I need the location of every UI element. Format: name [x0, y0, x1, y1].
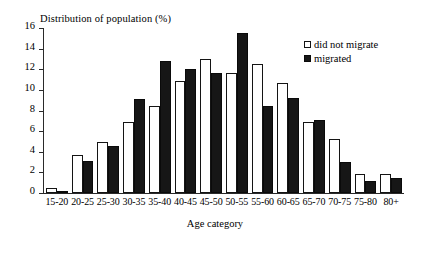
- y-tick-label: 16: [25, 20, 36, 31]
- bar-did-not-migrate: [200, 59, 211, 193]
- bar-migrated: [185, 69, 196, 193]
- bar-migrated: [391, 178, 402, 193]
- y-tick-label: 0: [30, 185, 35, 196]
- legend-label-migrated: migrated: [314, 52, 351, 66]
- bar-migrated: [263, 106, 274, 193]
- y-tick-12: 12: [0, 69, 43, 70]
- y-tick-label: 10: [25, 82, 36, 93]
- bar-group: [252, 28, 274, 193]
- y-tick-4: 4: [0, 152, 43, 153]
- bar-group: [123, 28, 145, 193]
- y-tick-mark: [39, 172, 43, 173]
- bar-migrated: [340, 162, 351, 193]
- bar-migrated: [314, 120, 325, 193]
- bar-did-not-migrate: [72, 155, 83, 193]
- legend-swatch-white-icon: [304, 41, 311, 48]
- y-tick-label: 4: [30, 144, 35, 155]
- bar-migrated: [108, 146, 119, 193]
- x-axis-title: Age category: [0, 218, 430, 229]
- bar-group: [46, 28, 68, 193]
- bar-did-not-migrate: [303, 122, 314, 193]
- y-tick-0: 0: [0, 193, 43, 194]
- bar-did-not-migrate: [329, 139, 340, 193]
- chart-legend: did not migrate migrated: [304, 38, 378, 65]
- bar-group: [149, 28, 171, 193]
- bar-group: [175, 28, 197, 193]
- bar-did-not-migrate: [277, 83, 288, 193]
- bar-did-not-migrate: [149, 106, 160, 193]
- legend-label-did-not-migrate: did not migrate: [314, 38, 378, 52]
- bar-did-not-migrate: [226, 73, 237, 193]
- legend-swatch-black-icon: [304, 55, 311, 62]
- y-tick-mark: [39, 28, 43, 29]
- bar-migrated: [160, 61, 171, 193]
- y-tick-mark: [39, 152, 43, 153]
- bar-migrated: [57, 191, 68, 193]
- y-tick-6: 6: [0, 131, 43, 132]
- y-tick-10: 10: [0, 90, 43, 91]
- x-axis-ticks: 15-2020-2525-3030-3535-4040-4545-5050-55…: [44, 196, 404, 212]
- bar-migrated: [211, 73, 222, 193]
- population-distribution-bar-chart: Distribution of population (%) 024681012…: [0, 0, 430, 254]
- legend-item-migrated: migrated: [304, 52, 378, 66]
- bar-did-not-migrate: [380, 174, 391, 193]
- bar-group: [226, 28, 248, 193]
- y-tick-2: 2: [0, 172, 43, 173]
- bar-did-not-migrate: [46, 188, 57, 193]
- bar-did-not-migrate: [355, 174, 366, 193]
- bar-migrated: [288, 98, 299, 193]
- y-tick-16: 16: [0, 28, 43, 29]
- y-tick-14: 14: [0, 49, 43, 50]
- y-tick-label: 2: [30, 164, 35, 175]
- bar-group: [380, 28, 402, 193]
- bar-did-not-migrate: [123, 122, 134, 193]
- bar-group: [72, 28, 94, 193]
- bar-did-not-migrate: [97, 142, 108, 193]
- bar-group: [200, 28, 222, 193]
- y-axis-title: Distribution of population (%): [40, 13, 171, 24]
- bar-did-not-migrate: [252, 64, 263, 193]
- bar-migrated: [83, 161, 94, 193]
- bar-group: [97, 28, 119, 193]
- bar-migrated: [237, 33, 248, 193]
- bar-did-not-migrate: [175, 81, 186, 193]
- bar-migrated: [365, 181, 376, 193]
- y-tick-mark: [39, 111, 43, 112]
- y-tick-mark: [39, 69, 43, 70]
- y-tick-8: 8: [0, 111, 43, 112]
- legend-item-did-not-migrate: did not migrate: [304, 38, 378, 52]
- y-tick-mark: [39, 90, 43, 91]
- y-tick-label: 12: [25, 61, 36, 72]
- bar-migrated: [134, 99, 145, 193]
- bar-group: [277, 28, 299, 193]
- x-tick-label: 80+: [376, 196, 406, 207]
- y-tick-mark: [39, 131, 43, 132]
- y-tick-label: 14: [25, 41, 36, 52]
- y-tick-mark: [39, 193, 43, 194]
- y-tick-label: 8: [30, 103, 35, 114]
- x-axis-line: [43, 193, 404, 194]
- y-tick-mark: [39, 49, 43, 50]
- y-tick-label: 6: [30, 123, 35, 134]
